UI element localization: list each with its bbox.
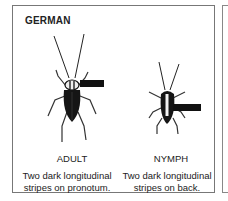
adult-description: Two dark longitudinal stripes on pronotu… [17, 170, 117, 194]
panel-title: GERMAN [25, 15, 71, 26]
adult-description-line-1: Two dark longitudinal [17, 170, 117, 182]
adjacent-panel-edge [222, 5, 228, 193]
nymph-description-line-2: stripes on back. [117, 182, 217, 194]
adult-label: ADULT [33, 153, 111, 164]
adult-description-line-2: stripes on pronotum. [17, 182, 117, 194]
back-pointer [173, 104, 201, 111]
nymph-description: Two dark longitudinal stripes on back. [117, 170, 217, 194]
adult-cockroach-illustration [38, 34, 108, 144]
german-cockroach-panel: GERMAN [12, 5, 215, 193]
nymph-description-line-1: Two dark longitudinal [117, 170, 217, 182]
nymph-label: NYMPH [131, 153, 211, 164]
pronotum-pointer [80, 80, 104, 87]
nymph-cockroach-illustration [145, 54, 209, 140]
